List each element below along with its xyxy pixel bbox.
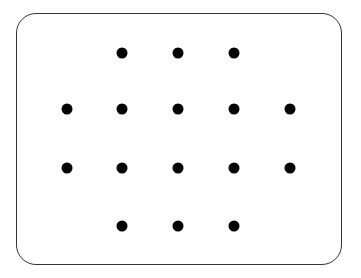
dot bbox=[117, 48, 128, 59]
dot bbox=[117, 163, 128, 174]
dot bbox=[229, 104, 240, 115]
dot bbox=[229, 221, 240, 232]
dot bbox=[173, 163, 184, 174]
dot bbox=[117, 104, 128, 115]
dot bbox=[285, 104, 296, 115]
dot bbox=[229, 163, 240, 174]
dot bbox=[285, 163, 296, 174]
dot bbox=[173, 104, 184, 115]
dot bbox=[62, 104, 73, 115]
dot bbox=[62, 163, 73, 174]
dot bbox=[173, 48, 184, 59]
dot bbox=[117, 221, 128, 232]
dot bbox=[229, 48, 240, 59]
dot bbox=[173, 221, 184, 232]
